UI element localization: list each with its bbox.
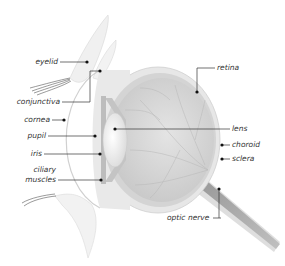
lower-eyelid [22,194,96,258]
label-lens: lens [232,124,247,133]
label-choroid: choroid [232,140,260,149]
label-eyelid: eyelid [20,57,58,66]
label-sclera: sclera [232,154,254,163]
label-iris: iris [10,149,42,158]
label-cornea: cornea [10,115,50,124]
label-optic-nerve: optic nerve [167,213,209,222]
label-conjunctiva: conjunctiva [2,97,60,106]
label-ciliary: ciliary [10,165,56,174]
label-muscles: muscles [10,175,56,184]
lens-shape [103,113,127,167]
eye-diagram: eyelid conjunctiva cornea pupil iris cil… [0,0,285,266]
label-retina: retina [217,63,239,72]
label-pupil: pupil [10,131,46,140]
